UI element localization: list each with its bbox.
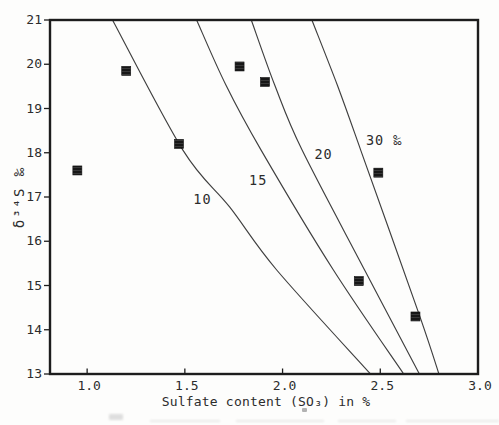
y-tick-label: 19: [26, 101, 42, 116]
data-point-square: [235, 62, 244, 71]
y-tick-label: 20: [26, 56, 42, 71]
x-tick-label: 2.5: [371, 378, 394, 393]
isoline-label: 20: [314, 146, 332, 162]
data-point-square: [174, 139, 183, 148]
data-point-square: [122, 66, 131, 75]
isoline-label: 30 ‰: [366, 132, 403, 148]
data-point-square: [73, 166, 82, 175]
x-tick-label: 1.0: [77, 378, 100, 393]
data-point-square: [411, 312, 420, 321]
isoline-label: 15: [249, 172, 267, 188]
scatter-plot: 10152030 ‰2120191817161514131.01.52.02.5…: [0, 0, 499, 425]
isoline-curve: [251, 20, 419, 374]
x-tick-label: 1.5: [175, 378, 198, 393]
isoline-label: 10: [193, 191, 211, 207]
data-point-square: [354, 277, 363, 286]
y-tick-label: 14: [26, 322, 42, 337]
data-point-square: [374, 168, 383, 177]
y-tick-label: 13: [26, 366, 42, 381]
x-tick-label: 3.0: [468, 378, 491, 393]
y-tick-label: 15: [26, 278, 42, 293]
y-tick-label: 21: [26, 12, 42, 27]
isoline-curve: [113, 20, 371, 374]
y-axis-title: δ³⁴S ‰: [11, 131, 29, 263]
data-point-square: [260, 77, 269, 86]
isoline-curve: [197, 20, 404, 374]
figure-canvas: 10152030 ‰2120191817161514131.01.52.02.5…: [0, 0, 499, 425]
x-axis-title: Sulfate content (SO₃) in %: [86, 394, 446, 409]
x-tick-label: 2.0: [273, 378, 296, 393]
